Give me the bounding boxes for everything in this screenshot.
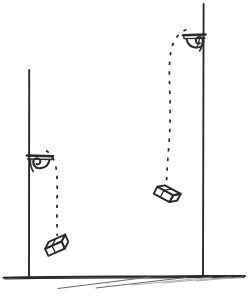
right-bracket-shelf-tip — [183, 35, 184, 39]
right-trajectory — [167, 30, 187, 182]
right-bracket-shelf — [183, 35, 206, 36]
right-block — [154, 183, 181, 205]
left-bracket — [27, 156, 53, 172]
right-bracket-support — [200, 39, 203, 52]
figure-canvas: Two erasers falling from wall brackets a… — [0, 0, 248, 297]
right-trajectory-path — [167, 30, 187, 182]
left-block-band — [52, 246, 55, 253]
right-block-band — [160, 190, 164, 197]
sketch-svg — [0, 0, 248, 297]
ground-hatch-2 — [96, 278, 186, 289]
ground-group — [4, 276, 246, 289]
right-bracket — [183, 35, 206, 52]
left-block — [43, 235, 70, 256]
left-bracket-shelf — [27, 156, 53, 157]
